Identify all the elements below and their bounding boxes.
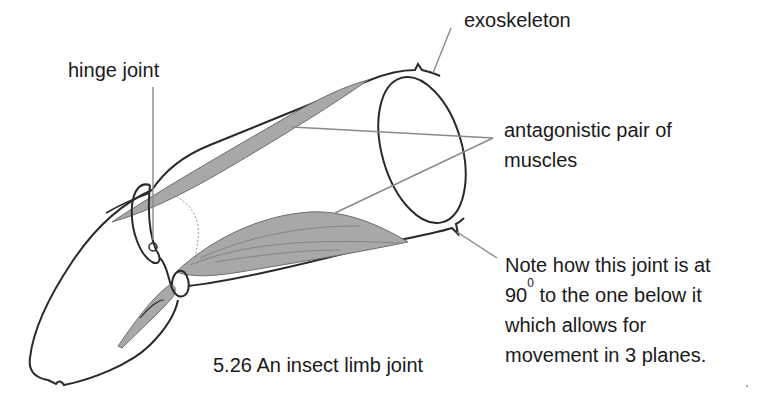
figure-caption: 5.26 An insect limb joint — [213, 354, 423, 377]
note-line2-rest: to the one below it — [534, 284, 702, 306]
note-line2: 900 to the one below it — [505, 280, 711, 310]
lower-limb-segment — [30, 190, 178, 385]
label-hinge-joint: hinge joint — [68, 59, 159, 82]
lower-segment-muscle — [118, 285, 175, 348]
exoskeleton-opening — [363, 67, 481, 233]
speck — [746, 385, 748, 387]
articular-membrane — [165, 192, 198, 258]
label-antagonistic-muscles: antagonistic pair of muscles — [504, 115, 672, 175]
label-joint-note: Note how this joint is at 900 to the one… — [505, 250, 711, 370]
note-line3: which allows for — [505, 310, 711, 340]
exoskeleton-leader — [433, 28, 451, 73]
note-line4: movement in 3 planes. — [505, 340, 711, 370]
note-angle: 90 — [505, 284, 527, 306]
label-antagonistic-line2: muscles — [504, 145, 672, 175]
label-exoskeleton: exoskeleton — [464, 9, 571, 32]
upper-muscle-leader — [292, 127, 493, 138]
note-degree-superscript: 0 — [527, 276, 534, 290]
label-antagonistic-line1: antagonistic pair of — [504, 115, 672, 145]
note-line1: Note how this joint is at — [505, 250, 711, 280]
joint-note-leader — [457, 232, 497, 258]
upper-muscle — [112, 80, 368, 222]
lower-muscle-leader — [335, 138, 493, 213]
